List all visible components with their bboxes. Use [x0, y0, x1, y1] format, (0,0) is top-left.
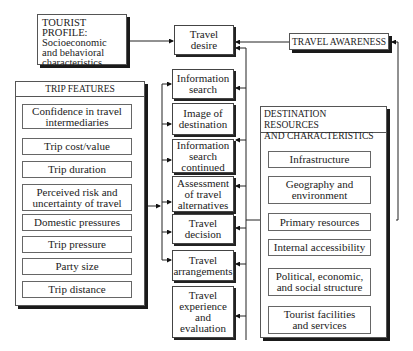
process-step-image-of-destination: Image of destination	[172, 103, 234, 135]
destination-item: Political, economic, and social structur…	[268, 268, 371, 296]
tourist-profile-box: TOURIST PROFILE: Socioeconomic and behav…	[37, 14, 127, 65]
process-step-travel-decision: Travel decision	[172, 214, 234, 244]
trip-feature-item: Trip distance	[22, 281, 132, 298]
destination-resources-title: DESTINATION RESOURCES AND CHARACTERISTIC…	[261, 107, 386, 133]
trip-feature-item: Trip duration	[22, 161, 132, 178]
trip-features-title: TRIP FEATURES	[16, 82, 144, 97]
process-step-information-search-continued: Information search continued	[172, 139, 234, 173]
trip-feature-item: Perceived risk and uncertainty of travel	[22, 184, 132, 211]
tourist-profile-body: Socioeconomic and behavioral characteris…	[42, 38, 122, 68]
tourist-profile-title: TOURIST PROFILE:	[42, 18, 122, 38]
trip-feature-item: Domestic pressures	[22, 214, 132, 231]
trip-feature-item: Confidence in travel intermediaries	[22, 104, 132, 129]
travel-awareness-box: TRAVEL AWARENESS	[289, 33, 389, 50]
trip-feature-item: Trip cost/value	[22, 138, 132, 155]
travel-awareness-label: TRAVEL AWARENESS	[292, 37, 386, 47]
destination-item: Primary resources	[268, 213, 371, 231]
trip-feature-item: Party size	[22, 258, 132, 275]
destination-item: Internal accessibility	[268, 239, 371, 256]
destination-item: Infrastructure	[268, 151, 371, 168]
process-step-travel-desire: Travel desire	[174, 25, 234, 55]
destination-item: Tourist facilities and services	[268, 306, 371, 334]
destination-item: Geography and environment	[268, 176, 371, 204]
process-step-travel-arrangements: Travel arrangements	[172, 250, 234, 281]
process-step-assessment-of-alternatives: Assessment of travel alternatives	[172, 176, 234, 212]
process-step-information-search: Information search	[172, 69, 234, 99]
process-step-travel-experience: Travel experience and evaluation	[172, 286, 234, 338]
trip-feature-item: Trip pressure	[22, 236, 132, 253]
